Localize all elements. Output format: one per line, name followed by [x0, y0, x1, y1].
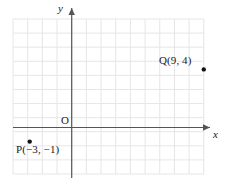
y-axis-label: y	[58, 2, 63, 14]
x-axis-label: x	[213, 128, 218, 140]
point-label-q: Q(9, 4)	[159, 54, 191, 66]
coordinate-plane-figure: Q(9, 4) P(−3, −1) y x O	[0, 0, 229, 180]
origin-label: O	[61, 114, 69, 126]
point-label-p: P(−3, −1)	[16, 143, 59, 155]
arrow-right-icon	[203, 124, 210, 130]
arrow-up-icon	[69, 8, 75, 15]
point-marker-q	[202, 67, 206, 71]
data-points	[28, 67, 206, 144]
